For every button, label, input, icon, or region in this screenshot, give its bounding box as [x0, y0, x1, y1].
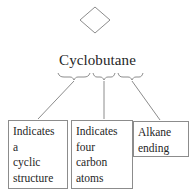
brace-cyclo	[58, 73, 90, 80]
compound-name-label: Cyclobutane	[0, 51, 195, 69]
note-line: Indicates	[76, 124, 132, 140]
note-line: atoms	[76, 171, 132, 187]
note-line: cyclic	[13, 155, 67, 171]
note-line: carbon	[76, 155, 132, 171]
note-box-ending: Alkane ending	[133, 121, 189, 157]
brace-but	[93, 73, 115, 80]
note-line: Alkane	[138, 125, 188, 141]
note-box-cyclic: Indicates a cyclic structure	[8, 120, 68, 189]
note-line: a	[13, 140, 67, 156]
note-line: ending	[138, 141, 188, 157]
brace-ane	[118, 73, 143, 80]
connector-to-ending-note	[132, 81, 160, 120]
note-line: structure	[13, 171, 67, 187]
diagram-canvas: Cyclobutane Indicates a cyclic structure…	[0, 0, 195, 193]
note-box-carbons: Indicates four carbon atoms	[71, 120, 133, 189]
connector-to-cyclic-note	[38, 81, 74, 119]
note-line: four	[76, 140, 132, 156]
note-line: Indicates	[13, 124, 67, 140]
cyclobutane-square-skeletal-structure-icon	[80, 7, 110, 33]
